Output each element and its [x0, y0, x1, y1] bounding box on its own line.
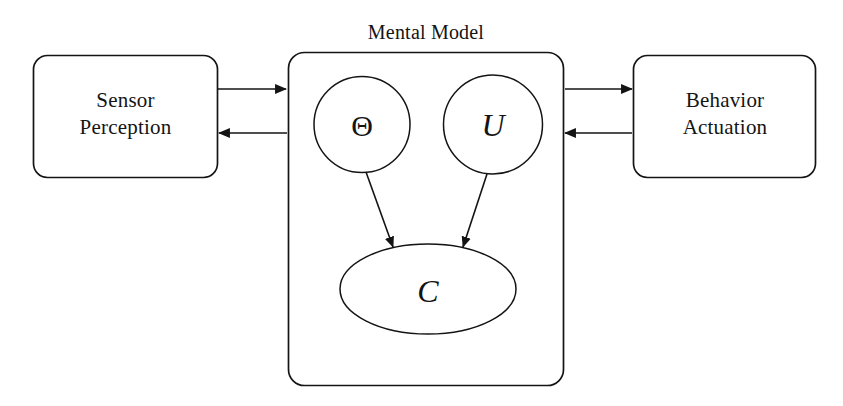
behavior-actuation-line1: Behavior — [634, 87, 816, 114]
theta-node-label: Θ — [313, 107, 411, 145]
architecture-diagram — [0, 0, 843, 406]
mental-model-container — [289, 53, 564, 386]
behavior-actuation-label: Behavior Actuation — [634, 87, 816, 141]
sensor-perception-line2: Perception — [33, 114, 218, 141]
c-node-label: C — [340, 271, 516, 312]
sensor-perception-label: Sensor Perception — [33, 87, 218, 141]
mental-model-title: Mental Model — [288, 20, 564, 46]
u-node-label: U — [443, 105, 543, 146]
behavior-actuation-line2: Actuation — [634, 114, 816, 141]
edge-u-to-c — [463, 174, 487, 247]
sensor-perception-line1: Sensor — [33, 87, 218, 114]
edge-theta-to-c — [366, 172, 393, 247]
